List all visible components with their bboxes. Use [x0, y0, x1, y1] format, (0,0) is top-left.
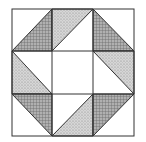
quilt-block-diagram: [0, 0, 146, 142]
triangle-middle-left-cell: [12, 51, 52, 94]
triangle-top-middle-cell: [52, 9, 93, 51]
triangle-bottom-middle-cell: [52, 94, 93, 136]
triangle-top-right-cell: [93, 9, 134, 51]
triangle-bottom-left-cell: [12, 94, 52, 136]
triangle-top-left-cell: [12, 9, 52, 51]
triangle-bottom-right-cell: [93, 94, 134, 136]
triangle-middle-right-cell: [93, 51, 134, 94]
